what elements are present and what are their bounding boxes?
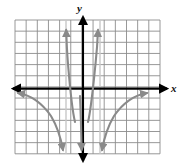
axes bbox=[13, 17, 167, 161]
branch-middle-down bbox=[80, 96, 82, 150]
coordinate-plane bbox=[0, 0, 182, 166]
graph-figure: y x bbox=[0, 0, 182, 166]
y-axis-label: y bbox=[77, 3, 82, 14]
branch-outer-left bbox=[18, 93, 63, 150]
grid-lines bbox=[15, 20, 160, 154]
x-axis-label: x bbox=[171, 83, 177, 94]
branch-outer-right bbox=[102, 93, 147, 150]
